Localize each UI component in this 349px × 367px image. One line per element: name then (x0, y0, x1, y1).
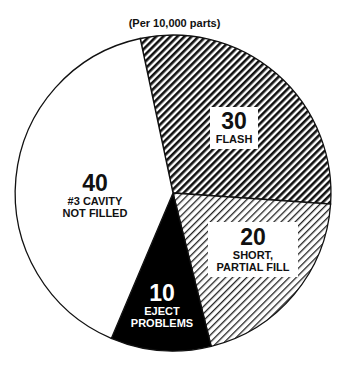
label-cavity-text-1: #3 CAVITY (55, 195, 135, 207)
label-cavity-value: 40 (55, 172, 135, 195)
label-eject-problems: 10 EJECT PROBLEMS (125, 282, 199, 329)
label-flash: 30 FLASH (210, 107, 258, 149)
label-short-value: 20 (208, 226, 298, 249)
label-short-text-1: SHORT, (208, 249, 298, 261)
label-eject-value: 10 (125, 282, 199, 305)
label-short-partial-fill: 20 SHORT, PARTIAL FILL (208, 222, 298, 277)
label-flash-value: 30 (210, 110, 258, 133)
label-cavity-text-2: NOT FILLED (55, 207, 135, 219)
label-cavity-not-filled: 40 #3 CAVITY NOT FILLED (55, 172, 135, 219)
label-flash-text: FLASH (210, 133, 258, 145)
label-short-text-2: PARTIAL FILL (208, 261, 298, 273)
label-eject-text-2: PROBLEMS (125, 317, 199, 329)
label-eject-text-1: EJECT (125, 305, 199, 317)
